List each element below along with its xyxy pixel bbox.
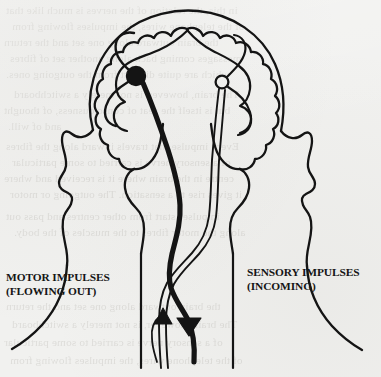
medulla-wall-left (125, 169, 144, 254)
left-ear-outline (59, 130, 93, 265)
right-ear-outline (281, 131, 315, 266)
motor-impulses-label: MOTOR IMPULSES (FLOWING OUT) (6, 271, 110, 298)
sensory-impulses-label-line2: (INCOMING) (247, 280, 359, 294)
brain-cortex-inner-right (187, 30, 251, 135)
line-art-illustration (0, 0, 381, 377)
motor-arrowhead-down (177, 318, 201, 336)
motor-impulses-label-line2: (FLOWING OUT) (6, 285, 110, 299)
sensory-arrowhead-up (155, 308, 172, 324)
motor-impulses-label-line1: MOTOR IMPULSES (6, 271, 110, 285)
brainstem-outline-left (134, 124, 163, 169)
nerve-impulse-diagram: in this, the relation of the nerves is m… (0, 0, 381, 377)
medulla-wall-right (230, 169, 249, 254)
sensory-impulses-label-line1: SENSORY IMPULSES (247, 266, 359, 280)
sensory-impulses-label: SENSORY IMPULSES (INCOMING) (247, 266, 359, 293)
